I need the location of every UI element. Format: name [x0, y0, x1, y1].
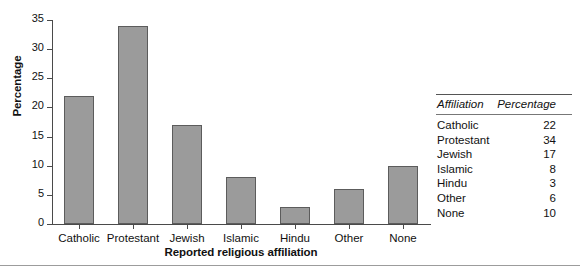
x-axis-tick-label: Islamic [223, 232, 259, 244]
table-cell-percentage: 6 [493, 191, 572, 206]
y-axis-tick [47, 49, 52, 50]
table-row: Jewish17 [436, 147, 572, 162]
table-row: Hindu3 [436, 176, 572, 191]
x-axis-tick [403, 224, 404, 229]
x-axis-tick-label: Jewish [169, 232, 204, 244]
table-row: None10 [436, 205, 572, 220]
table-header-affiliation: Affiliation [436, 95, 493, 115]
table-header-row: Affiliation Percentage [436, 95, 572, 115]
table-row: Catholic22 [436, 115, 572, 133]
bar [118, 26, 148, 224]
figure-container: Percentage 05101520253035 CatholicProtes… [0, 0, 580, 277]
x-axis-tick [133, 224, 134, 229]
x-axis-tick-label: Hindu [280, 232, 310, 244]
y-axis-tick-label: 35 [32, 12, 44, 24]
table-body: Catholic22Protestant34Jewish17Islamic8Hi… [436, 115, 572, 220]
table-cell-affiliation: Jewish [436, 147, 493, 162]
table-cell-percentage: 10 [493, 205, 572, 220]
table-cell-percentage: 22 [493, 115, 572, 133]
x-axis-tick [349, 224, 350, 229]
y-axis-tick-label: 10 [32, 158, 44, 170]
table-cell-percentage: 34 [493, 132, 572, 147]
x-axis-tick [241, 224, 242, 229]
bar [64, 96, 94, 224]
bar [334, 189, 364, 224]
page-separator-rule [0, 265, 580, 266]
y-axis-tick-label: 30 [32, 41, 44, 53]
data-table: Affiliation Percentage Catholic22Protest… [436, 94, 572, 220]
y-axis-tick-label: 20 [32, 99, 44, 111]
bar [388, 166, 418, 224]
x-axis-tick-label: Catholic [58, 232, 100, 244]
x-axis-title: Reported religious affiliation [52, 246, 430, 258]
x-axis-tick-label: Protestant [107, 232, 159, 244]
table-header-percentage: Percentage [493, 95, 572, 115]
table-cell-affiliation: None [436, 205, 493, 220]
bar-chart: Percentage 05101520253035 CatholicProtes… [0, 0, 440, 277]
y-axis-tick [47, 20, 52, 21]
x-axis-tick-label: None [389, 232, 417, 244]
table-row: Protestant34 [436, 132, 572, 147]
table-header: Affiliation Percentage [436, 95, 572, 115]
y-axis-tick [47, 137, 52, 138]
y-axis-tick-label: 5 [38, 187, 44, 199]
table-cell-affiliation: Hindu [436, 176, 493, 191]
y-axis-tick-label: 15 [32, 129, 44, 141]
bar [226, 177, 256, 224]
y-axis-tick [47, 166, 52, 167]
x-axis-tick [79, 224, 80, 229]
x-axis-tick [295, 224, 296, 229]
y-axis-tick-label: 25 [32, 70, 44, 82]
x-axis-tick-label: Other [335, 232, 364, 244]
bar [280, 207, 310, 224]
y-axis-tick-label: 0 [38, 216, 44, 228]
plot-area: 05101520253035 CatholicProtestantJewishI… [52, 20, 430, 224]
table-cell-affiliation: Other [436, 191, 493, 206]
y-axis-tick [47, 78, 52, 79]
table-cell-percentage: 17 [493, 147, 572, 162]
x-axis-tick [187, 224, 188, 229]
table-row: Other6 [436, 191, 572, 206]
table-cell-percentage: 8 [493, 161, 572, 176]
table-cell-percentage: 3 [493, 176, 572, 191]
y-axis-tick [47, 107, 52, 108]
y-axis-tick [47, 224, 52, 225]
table-cell-affiliation: Catholic [436, 115, 493, 133]
y-axis-line [52, 20, 53, 224]
table-cell-affiliation: Protestant [436, 132, 493, 147]
table-row: Islamic8 [436, 161, 572, 176]
bar [172, 125, 202, 224]
y-axis-tick [47, 195, 52, 196]
data-table-container: Affiliation Percentage Catholic22Protest… [436, 94, 572, 220]
table-cell-affiliation: Islamic [436, 161, 493, 176]
y-axis-title: Percentage [9, 41, 25, 131]
